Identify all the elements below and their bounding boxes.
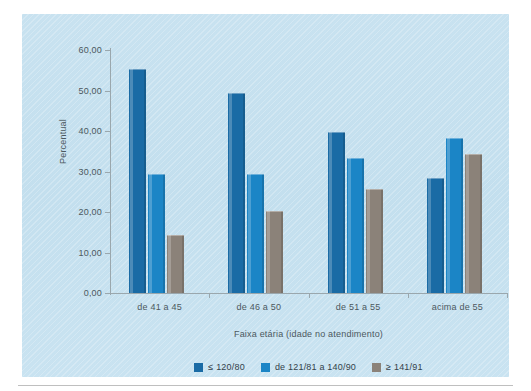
- legend-label: ≥ 141/91: [386, 362, 423, 372]
- bar: [427, 178, 444, 293]
- y-axis-tick: [105, 293, 110, 294]
- y-axis-tick: [105, 91, 110, 92]
- x-axis-tick-label: acima de 55: [432, 302, 483, 312]
- bar: [328, 132, 345, 293]
- bar: [148, 174, 165, 293]
- y-axis-tick: [105, 131, 110, 132]
- x-axis-tick: [507, 293, 508, 298]
- legend-swatch-icon: [194, 363, 203, 372]
- legend-swatch-icon: [372, 363, 381, 372]
- bar: [247, 174, 264, 293]
- legend-item[interactable]: ≥ 141/91: [372, 362, 423, 372]
- legend-item[interactable]: de 121/81 a 140/90: [261, 362, 356, 372]
- figure: Percentual Faixa etária (idade no atendi…: [0, 0, 531, 391]
- x-axis-tick: [408, 293, 409, 298]
- bar: [446, 138, 463, 293]
- plot-area: 0,0010,0020,0030,0040,0050,0060,00 de 41…: [110, 50, 507, 293]
- y-axis-tick-label: 0,00: [84, 288, 102, 298]
- bar: [228, 93, 245, 293]
- x-axis-title: Faixa etária (idade no atendimento): [110, 329, 507, 339]
- legend-swatch-icon: [261, 363, 270, 372]
- y-axis-tick: [105, 253, 110, 254]
- bar: [266, 211, 283, 293]
- legend: ≤ 120/80de 121/81 a 140/90≥ 141/91: [110, 362, 507, 372]
- y-axis-tick-label: 40,00: [78, 126, 102, 136]
- bar: [465, 154, 482, 293]
- legend-label: de 121/81 a 140/90: [275, 362, 356, 372]
- y-axis-tick: [105, 50, 110, 51]
- bar: [347, 158, 364, 293]
- x-axis-tick-label: de 46 a 50: [237, 302, 282, 312]
- y-axis-tick-label: 10,00: [78, 248, 102, 258]
- x-axis-tick-label: de 51 a 55: [336, 302, 381, 312]
- y-axis-tick-label: 60,00: [78, 45, 102, 55]
- bar: [366, 189, 383, 293]
- y-axis-tick-label: 30,00: [78, 167, 102, 177]
- legend-label: ≤ 120/80: [208, 362, 245, 372]
- bar: [167, 235, 184, 293]
- y-axis-tick-label: 20,00: [78, 207, 102, 217]
- page-rule: [18, 385, 513, 386]
- bar: [129, 69, 146, 293]
- y-axis-line: [110, 48, 111, 295]
- legend-item[interactable]: ≤ 120/80: [194, 362, 245, 372]
- x-axis-tick-label: de 41 a 45: [137, 302, 182, 312]
- x-axis-tick: [209, 293, 210, 298]
- y-axis-tick-label: 50,00: [78, 86, 102, 96]
- y-axis-tick: [105, 212, 110, 213]
- y-axis-tick: [105, 172, 110, 173]
- y-axis-title: Percentual: [58, 119, 68, 164]
- chart-panel: Percentual Faixa etária (idade no atendi…: [22, 14, 509, 377]
- x-axis-tick: [309, 293, 310, 298]
